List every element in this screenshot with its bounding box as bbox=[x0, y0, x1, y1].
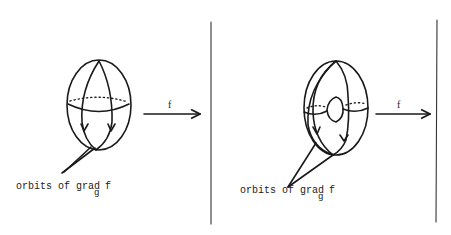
orbit-arrowhead-right bbox=[340, 135, 348, 141]
torus-equator-right-front bbox=[343, 108, 368, 111]
sphere-equator-front bbox=[68, 104, 129, 112]
sphere-figure bbox=[62, 60, 131, 173]
caption-pointer-line bbox=[288, 155, 333, 187]
caption-f: f bbox=[105, 181, 111, 192]
target-real-line bbox=[436, 20, 437, 222]
orbit-arrowhead-left bbox=[81, 124, 88, 131]
caption-pointer-line bbox=[64, 147, 91, 172]
torus-figure bbox=[288, 61, 368, 187]
caption-orbits: orbits of grad bbox=[240, 185, 324, 196]
torus-hole bbox=[327, 97, 343, 122]
gradient-orbit-right bbox=[333, 61, 349, 155]
gradient-orbit-left bbox=[82, 61, 99, 150]
gradient-orbit-left bbox=[313, 61, 336, 155]
caption-f: f bbox=[329, 185, 335, 196]
diagram-canvas: orbits of grad g f f orbits of grad g f … bbox=[0, 0, 451, 235]
caption-subscript: g bbox=[94, 188, 99, 198]
sphere-equator-back bbox=[70, 97, 128, 102]
caption-subscript: g bbox=[318, 192, 323, 202]
map-label-f: f bbox=[397, 99, 401, 110]
sphere-outline bbox=[67, 60, 131, 150]
caption-pointer-line bbox=[288, 143, 316, 187]
map-label-f: f bbox=[168, 99, 172, 110]
gradient-orbit-right bbox=[96, 61, 112, 150]
caption-orbits: orbits of grad bbox=[16, 181, 100, 192]
